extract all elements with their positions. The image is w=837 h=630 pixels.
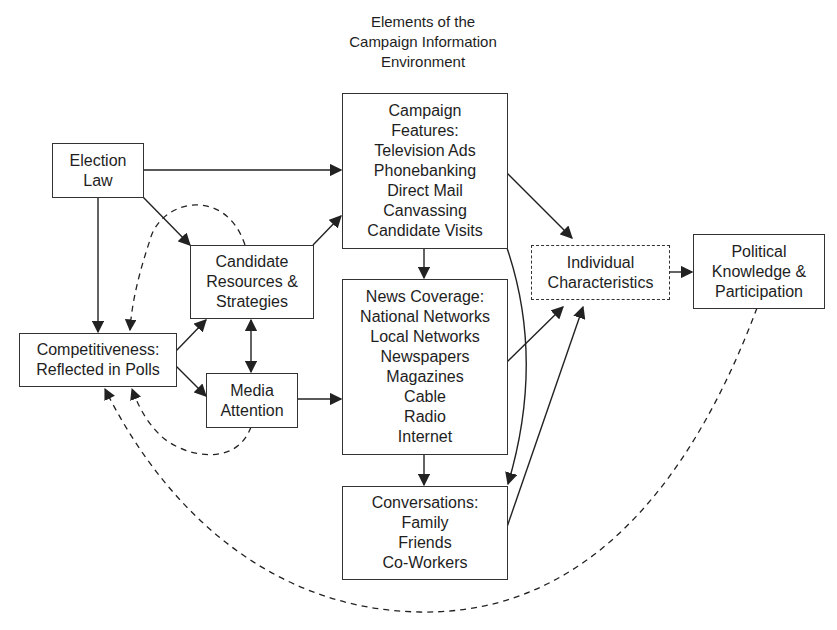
- node-text: Newspapers: [381, 347, 470, 367]
- node-text: Canvassing: [383, 201, 467, 221]
- node-text: News Coverage:: [366, 287, 484, 307]
- node-competitiveness: Competitiveness: Reflected in Polls: [19, 333, 177, 387]
- node-candidate-resources: Candidate Resources & Strategies: [190, 245, 314, 319]
- node-text: Television Ads: [374, 141, 475, 161]
- edge-news-individual: [507, 307, 563, 362]
- node-text: Characteristics: [548, 273, 654, 293]
- node-text: Law: [83, 171, 112, 191]
- edge-conversations-individual: [507, 307, 583, 527]
- node-text: Attention: [220, 401, 283, 421]
- edge-competitiveness-candidate: [176, 320, 206, 351]
- node-text: Radio: [404, 407, 446, 427]
- node-conversations: Conversations: Family Friends Co-Workers: [342, 486, 508, 580]
- node-text: National Networks: [360, 307, 490, 327]
- node-text: Candidate Visits: [367, 221, 482, 241]
- node-text: Election: [70, 151, 127, 171]
- node-text: Competitiveness:: [37, 340, 160, 360]
- node-text: Candidate: [216, 252, 289, 272]
- node-text: Political: [731, 242, 786, 262]
- node-text: Resources &: [206, 272, 298, 292]
- node-text: Strategies: [216, 292, 288, 312]
- node-text: Family: [401, 513, 448, 533]
- node-individual-characteristics: Individual Characteristics: [531, 245, 670, 300]
- node-text: Friends: [398, 533, 451, 553]
- node-text: Local Networks: [370, 327, 479, 347]
- node-media-attention: Media Attention: [206, 373, 298, 428]
- node-election-law: Election Law: [52, 143, 144, 198]
- node-text: Magazines: [386, 367, 463, 387]
- node-text: Participation: [715, 282, 803, 302]
- edge-competitiveness-media: [176, 366, 206, 396]
- node-text: Features:: [391, 121, 459, 141]
- node-text: Reflected in Polls: [36, 360, 160, 380]
- node-political-knowledge: Political Knowledge & Participation: [693, 234, 825, 309]
- node-text: Phonebanking: [374, 161, 476, 181]
- edge-campaign-conversations: [507, 248, 526, 484]
- node-text: Media: [230, 381, 274, 401]
- node-text: Knowledge &: [712, 262, 806, 282]
- node-text: Internet: [398, 427, 452, 447]
- node-campaign-features: Campaign Features: Television Ads Phoneb…: [342, 93, 508, 249]
- edge-candidate-campaign: [313, 216, 341, 245]
- node-text: Conversations:: [372, 493, 479, 513]
- node-text: Campaign: [389, 101, 462, 121]
- node-text: Cable: [404, 387, 446, 407]
- edge-electionlaw-candidate: [143, 197, 190, 245]
- node-text: Individual: [567, 253, 635, 273]
- node-text: Direct Mail: [387, 181, 463, 201]
- node-news-coverage: News Coverage: National Networks Local N…: [342, 279, 508, 455]
- node-text: Co-Workers: [382, 553, 467, 573]
- edge-campaign-individual: [507, 173, 572, 238]
